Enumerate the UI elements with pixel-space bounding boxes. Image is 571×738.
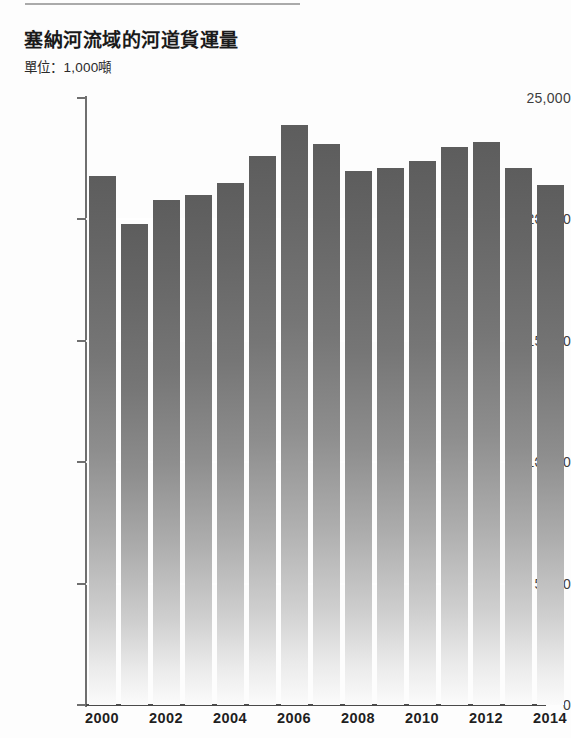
bar-2004 [217,183,244,705]
x-axis-label-2010: 2010 [392,710,452,726]
bar-chart: 25,00020,00015,00010,0005,0000 200020022… [0,0,571,738]
x-axis-label-2012: 2012 [456,710,516,726]
bar-2008 [345,171,372,705]
bar-2003 [185,195,212,705]
bar-2006 [281,125,308,705]
bar-2011 [441,147,468,705]
x-axis-label-2002: 2002 [136,710,196,726]
x-axis-label-2006: 2006 [264,710,324,726]
x-axis-label-2008: 2008 [328,710,388,726]
bar-series [86,98,546,705]
y-axis-tick [77,704,86,706]
y-axis-tick [77,97,86,99]
chart-page: 塞納河流域的河道貨運量 單位：1,000噸 25,00020,00015,000… [0,0,571,738]
bar-2001 [121,224,148,705]
y-axis-tick [77,461,86,463]
x-axis-label-2000: 2000 [72,710,132,726]
x-axis-label-2004: 2004 [200,710,260,726]
bar-2005 [249,156,276,705]
bar-2002 [153,200,180,705]
y-axis-tick [77,218,86,220]
bar-2000 [89,176,116,705]
x-axis-labels: 20002002200420062008201020122014 [86,710,546,736]
y-axis-tick [77,340,86,342]
bar-2014 [537,185,564,705]
bar-2012 [473,142,500,705]
bar-2010 [409,161,436,705]
y-axis-tick [77,583,86,585]
bar-2013 [505,168,532,705]
bar-2007 [313,144,340,705]
bar-2009 [377,168,404,705]
x-axis-label-2014: 2014 [520,710,571,726]
